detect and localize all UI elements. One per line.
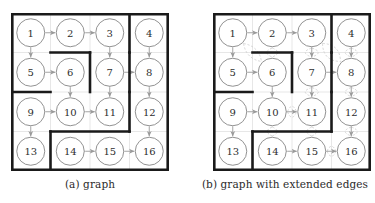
node-label: 10 — [64, 107, 77, 118]
node-11[interactable]: 11 — [298, 98, 326, 126]
node-13[interactable]: 13 — [219, 137, 247, 165]
node-2[interactable]: 2 — [56, 19, 84, 47]
node-7[interactable]: 7 — [96, 58, 124, 86]
node-label: 4 — [146, 28, 152, 39]
node-label: 8 — [146, 67, 152, 78]
figure-sheet: 12345678910111213141516 (a) graph 123456… — [0, 0, 375, 203]
node-2[interactable]: 2 — [258, 19, 286, 47]
node-label: 15 — [103, 146, 116, 157]
node-label: 3 — [107, 28, 113, 39]
node-label: 7 — [107, 67, 113, 78]
node-10[interactable]: 10 — [56, 98, 84, 126]
node-6[interactable]: 6 — [258, 58, 286, 86]
node-4[interactable]: 4 — [337, 19, 365, 47]
node-label: 16 — [143, 146, 156, 157]
node-label: 10 — [266, 107, 279, 118]
node-label: 14 — [266, 146, 279, 157]
figure-a-caption: (a) graph — [0, 178, 180, 190]
node-8[interactable]: 8 — [135, 58, 163, 86]
node-label: 3 — [309, 28, 315, 39]
node-label: 6 — [67, 67, 73, 78]
node-9[interactable]: 9 — [17, 98, 45, 126]
node-16[interactable]: 16 — [337, 137, 365, 165]
node-12[interactable]: 12 — [135, 98, 163, 126]
node-label: 9 — [28, 107, 34, 118]
node-label: 2 — [269, 28, 275, 39]
node-3[interactable]: 3 — [96, 19, 124, 47]
node-3[interactable]: 3 — [298, 19, 326, 47]
node-14[interactable]: 14 — [258, 137, 286, 165]
node-label: 11 — [305, 107, 318, 118]
node-5[interactable]: 5 — [17, 58, 45, 86]
node-13[interactable]: 13 — [17, 137, 45, 165]
node-label: 15 — [305, 146, 318, 157]
node-label: 13 — [24, 146, 37, 157]
node-1[interactable]: 1 — [17, 19, 45, 47]
node-9[interactable]: 9 — [219, 98, 247, 126]
node-10[interactable]: 10 — [258, 98, 286, 126]
figure-b: 12345678910111213141516 (b) graph with e… — [195, 0, 375, 171]
node-label: 1 — [230, 28, 236, 39]
node-label: 13 — [226, 146, 239, 157]
node-label: 12 — [345, 107, 358, 118]
node-1[interactable]: 1 — [219, 19, 247, 47]
node-label: 5 — [28, 67, 34, 78]
node-14[interactable]: 14 — [56, 137, 84, 165]
node-15[interactable]: 15 — [298, 137, 326, 165]
figure-a-board: 12345678910111213141516 — [11, 13, 169, 171]
figure-a: 12345678910111213141516 (a) graph — [0, 0, 180, 171]
node-16[interactable]: 16 — [135, 137, 163, 165]
node-5[interactable]: 5 — [219, 58, 247, 86]
node-label: 6 — [269, 67, 275, 78]
grid-graph-b: 12345678910111213141516 — [213, 13, 371, 171]
node-label: 1 — [28, 28, 34, 39]
node-label: 2 — [67, 28, 73, 39]
node-4[interactable]: 4 — [135, 19, 163, 47]
node-label: 14 — [64, 146, 77, 157]
node-8[interactable]: 8 — [337, 58, 365, 86]
node-label: 5 — [230, 67, 236, 78]
node-label: 11 — [103, 107, 116, 118]
node-label: 8 — [348, 67, 354, 78]
node-label: 12 — [143, 107, 156, 118]
node-6[interactable]: 6 — [56, 58, 84, 86]
node-label: 7 — [309, 67, 315, 78]
node-label: 16 — [345, 146, 358, 157]
extended-edges — [244, 44, 358, 157]
node-7[interactable]: 7 — [298, 58, 326, 86]
node-label: 4 — [348, 28, 354, 39]
node-12[interactable]: 12 — [337, 98, 365, 126]
figure-b-board: 12345678910111213141516 — [213, 13, 371, 171]
node-15[interactable]: 15 — [96, 137, 124, 165]
grid-graph-a: 12345678910111213141516 — [11, 13, 169, 171]
figure-b-caption: (b) graph with extended edges — [195, 178, 375, 190]
node-label: 9 — [230, 107, 236, 118]
node-11[interactable]: 11 — [96, 98, 124, 126]
